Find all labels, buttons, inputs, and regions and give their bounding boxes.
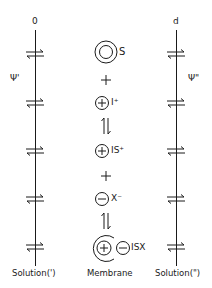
species-label-s: S [119,46,125,57]
membrane-transport-diagram: 0 d Ψ' Ψ" S I⁺ IS⁺ X⁻ ISX Solution(') Me… [0,0,212,288]
double-circle-neutral-icon [95,41,117,63]
membrane-label: Membrane [87,268,133,278]
equilibrium-arrow-icon [102,118,111,134]
right-potential-label: Ψ" [188,73,199,83]
left-position-label: 0 [32,16,38,26]
species-label-x-minus: X⁻ [111,193,122,203]
equilibrium-arrow-icon [102,213,111,229]
ion-pair-complex-icon [93,236,129,262]
plus-operator-icon [101,75,111,85]
species-label-is-plus: IS⁺ [111,145,124,155]
circled-minus-icon [96,193,109,206]
right-phase-label: Solution(") [155,268,200,278]
plus-operator-icon [101,171,111,181]
left-phase-label: Solution(') [12,268,56,278]
species-label-i-plus: I⁺ [111,97,118,107]
left-potential-label: Ψ' [10,73,20,83]
circled-plus-icon [96,97,109,110]
species-label-isx: ISX [131,242,146,252]
circled-plus-icon [96,145,109,158]
right-position-label: d [173,16,179,26]
diagram-graphics [0,0,212,288]
